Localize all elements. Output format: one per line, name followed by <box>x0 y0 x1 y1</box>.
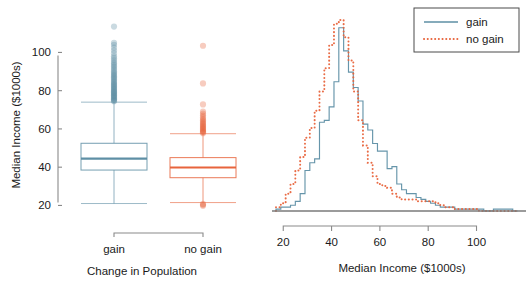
figure-container: Median Income ($1000s) 20406080100 gainn… <box>0 0 531 288</box>
outlier-point <box>200 43 206 49</box>
boxplot-y-axis: 20406080100 <box>32 46 62 211</box>
boxplot-y-axis-title: Median Income ($1000s) <box>10 61 22 188</box>
histogram-x-tick-label: 80 <box>422 236 435 248</box>
boxplot-y-tick-label: 80 <box>38 85 51 97</box>
boxplot-x-tick-label: no gain <box>184 243 222 255</box>
outlier-point <box>200 109 206 115</box>
boxplot-y-tick-label: 40 <box>38 161 51 173</box>
boxplot-panel: Median Income ($1000s) 20406080100 gainn… <box>0 0 262 288</box>
outlier-point <box>200 101 206 107</box>
histogram-x-axis: 20406080100 <box>277 226 486 248</box>
outlier-point <box>200 201 206 207</box>
legend-frame <box>414 8 519 52</box>
boxplot-y-tick-label: 20 <box>38 199 51 211</box>
histogram-x-tick-label: 20 <box>277 236 290 248</box>
boxplot-y-tick-label: 100 <box>32 46 51 58</box>
boxplot-y-tick-label: 60 <box>38 123 51 135</box>
outlier-point <box>111 24 117 30</box>
histogram-legend[interactable]: gainno gain <box>414 8 519 52</box>
boxplot-series-group <box>81 24 236 209</box>
histogram-x-tick-label: 40 <box>325 236 338 248</box>
histogram-x-tick-label: 60 <box>373 236 386 248</box>
legend-item-label: gain <box>466 16 488 28</box>
histogram-x-tick-label: 100 <box>467 236 486 248</box>
histogram-panel: 20406080100 Median Income ($1000s) gainn… <box>262 0 531 288</box>
boxplot-x-tick-label: gain <box>103 243 125 255</box>
histogram-step-gain <box>276 28 518 211</box>
boxplot-x-axis-title: Change in Population <box>87 265 197 277</box>
boxplot-box-gain <box>81 24 147 204</box>
legend-item-label: no gain <box>466 33 504 45</box>
boxplot-box-no-gain <box>170 43 236 209</box>
outlier-point <box>111 40 117 46</box>
boxplot-x-axis: gainno gain <box>103 233 222 255</box>
outlier-point <box>200 80 206 86</box>
box-iqr-rect <box>81 143 147 170</box>
histogram-x-axis-title: Median Income ($1000s) <box>338 262 465 274</box>
